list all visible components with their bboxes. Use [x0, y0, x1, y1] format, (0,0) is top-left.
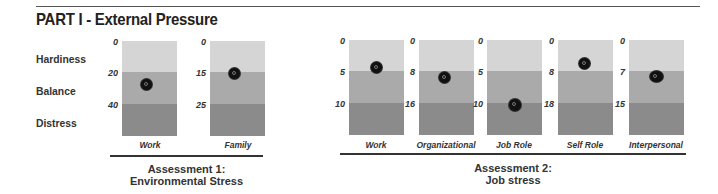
category-label: Work [336, 140, 416, 150]
score-marker-interpersonal [650, 71, 663, 82]
balance-band [558, 71, 613, 103]
tick: 7 [607, 67, 625, 77]
hardiness-band [487, 40, 542, 71]
tick: 20 [100, 68, 118, 78]
category-label: Family [198, 140, 278, 150]
category-label: Interpersonal [616, 140, 696, 150]
tick: 15 [188, 68, 206, 78]
assessment-1-line1: Assessment 1: [110, 163, 263, 175]
score-marker-env-family [229, 68, 240, 79]
tick: 25 [188, 100, 206, 110]
score-marker-job-organizational [439, 72, 450, 83]
hardiness-band [629, 40, 684, 71]
tick: 40 [100, 100, 118, 110]
tick: 5 [465, 67, 483, 77]
tick: 8 [536, 67, 554, 77]
hardiness-band [210, 41, 265, 72]
tick: 10 [327, 99, 345, 109]
tick: 0 [536, 36, 554, 46]
bar-job-work [349, 40, 404, 135]
row-label-distress: Distress [36, 117, 77, 129]
score-marker-job-work [371, 62, 382, 73]
tick: 18 [536, 99, 554, 109]
assessment-2-line1: Assessment 2: [340, 162, 686, 174]
bar-self-role [558, 40, 613, 135]
score-marker-job-role [509, 99, 521, 111]
tick: 0 [465, 36, 483, 46]
assessment-1-label: Assessment 1: Environmental Stress [110, 163, 263, 187]
tick: 15 [607, 99, 625, 109]
assessment-2-rule [340, 153, 686, 155]
tick: 0 [188, 37, 206, 47]
distress-band [558, 103, 613, 135]
tick: 0 [100, 37, 118, 47]
assessment-2-label: Assessment 2: Job stress [340, 162, 686, 186]
tick: 8 [397, 67, 415, 77]
bar-interpersonal [629, 40, 684, 135]
assessment-2-line2: Job stress [340, 174, 686, 186]
distress-band [629, 103, 684, 135]
tick: 0 [327, 36, 345, 46]
bar-env-family [210, 41, 265, 136]
assessment-1-line2: Environmental Stress [110, 175, 263, 187]
distress-band [349, 103, 404, 135]
distress-band [122, 104, 177, 136]
distress-band [210, 104, 265, 136]
hardiness-band [122, 41, 177, 72]
tick: 0 [397, 36, 415, 46]
category-label: Work [110, 140, 190, 150]
tick: 16 [397, 99, 415, 109]
score-marker-env-work [141, 79, 152, 90]
category-label: Self Role [545, 140, 625, 150]
category-label: Job Role [474, 140, 554, 150]
page-title: PART I - External Pressure [36, 10, 218, 30]
tick: 10 [465, 99, 483, 109]
balance-band [349, 71, 404, 103]
bar-job-role [487, 40, 542, 135]
row-label-balance: Balance [36, 85, 76, 97]
assessment-1-rule [110, 155, 263, 157]
tick: 0 [607, 36, 625, 46]
score-marker-self-role [579, 58, 590, 69]
top-rule [36, 6, 700, 7]
row-label-hardiness: Hardiness [36, 53, 86, 65]
tick: 5 [327, 67, 345, 77]
bar-job-organizational [419, 40, 474, 135]
